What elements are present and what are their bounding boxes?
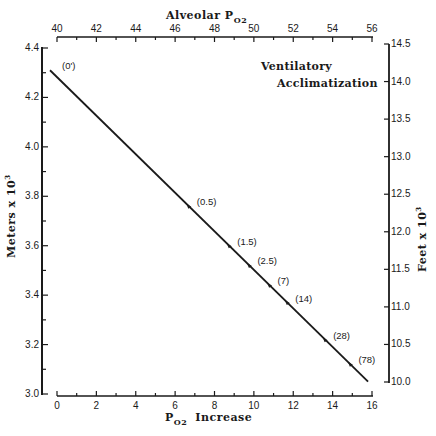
top-tick-label: 44	[130, 23, 142, 34]
data-point-label: (78)	[358, 354, 375, 365]
data-point-label: (28)	[333, 330, 350, 341]
top-tick-label: 48	[209, 23, 221, 34]
left-tick-label: 3.8	[25, 190, 39, 201]
data-point-label: (7)	[278, 275, 290, 286]
data-point-label: (2.5)	[257, 255, 277, 266]
top-tick-label: 56	[366, 23, 378, 34]
left-axis-title: Meters x 103	[3, 174, 18, 258]
left-tick-label: 4.0	[25, 141, 39, 152]
right-tick-label: 11.5	[391, 263, 410, 274]
bottom-tick-label: 10	[248, 400, 260, 411]
left-tick-label: 4.2	[25, 91, 39, 102]
bottom-tick-label: 4	[133, 400, 139, 411]
right-tick-label: 14.0	[391, 76, 411, 87]
chart-canvas: 02468101214164042444648505254563.03.23.4…	[0, 0, 436, 436]
right-tick-label: 13.0	[391, 151, 411, 162]
data-point-label: (0.5)	[197, 196, 217, 207]
left-tick-label: 4.4	[25, 42, 39, 53]
right-tick-label: 11.0	[391, 301, 410, 312]
right-tick-label: 12.0	[391, 226, 411, 237]
left-tick-label: 3.6	[25, 240, 39, 251]
bottom-tick-label: 14	[327, 400, 339, 411]
top-tick-label: 54	[327, 23, 339, 34]
right-tick-label: 10.0	[391, 376, 411, 387]
bottom-tick-label: 6	[172, 400, 178, 411]
bottom-axis-title: PO2Increase	[165, 411, 252, 427]
right-tick-label: 14.5	[391, 38, 411, 49]
right-tick-label: 13.5	[391, 113, 411, 124]
top-tick-label: 50	[248, 23, 260, 34]
data-point-label: (14)	[295, 293, 312, 304]
bottom-tick-label: 8	[212, 400, 218, 411]
data-point-label: (1.5)	[237, 236, 257, 247]
bottom-tick-label: 2	[94, 400, 100, 411]
data-point-label: (0')	[62, 60, 75, 71]
bottom-tick-label: 12	[288, 400, 300, 411]
top-tick-label: 40	[51, 23, 63, 34]
right-tick-label: 12.5	[391, 188, 411, 199]
data-line	[50, 70, 368, 381]
data-points: (0')(0.5)(1.5)(2.5)(7)(14)(28)(78)	[62, 60, 375, 367]
tick-marks	[42, 37, 389, 396]
annotation-acclimatization: Acclimatization	[276, 77, 378, 90]
axes	[42, 37, 389, 396]
top-tick-label: 42	[91, 23, 103, 34]
top-tick-label: 52	[288, 23, 300, 34]
left-tick-label: 3.0	[25, 388, 39, 399]
annotation-ventilatory: Ventilatory	[260, 60, 332, 73]
left-tick-label: 3.2	[25, 339, 39, 350]
bottom-tick-label: 16	[366, 400, 378, 411]
right-tick-label: 10.5	[391, 338, 411, 349]
left-tick-label: 3.4	[25, 289, 39, 300]
bottom-tick-label: 0	[54, 400, 60, 411]
top-tick-label: 46	[170, 23, 182, 34]
right-axis-title: Feet x 103	[414, 206, 429, 272]
